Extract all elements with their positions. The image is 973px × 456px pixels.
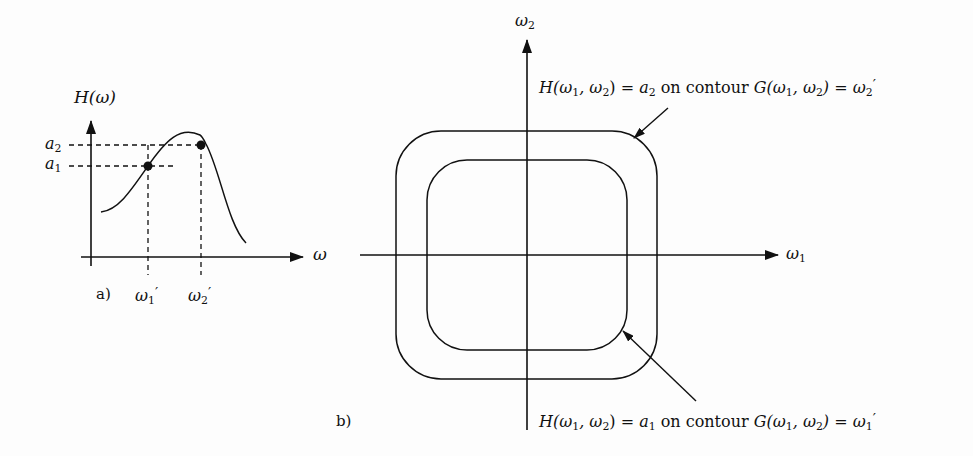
outer-contour-annotation: H(ω1, ω2) = a2 on contour G(ω1, ω2) = ω2… bbox=[539, 78, 876, 99]
inner-leader-arrow bbox=[623, 331, 696, 401]
dashed-guides bbox=[69, 145, 201, 275]
figure: H(ω) a2 a1 ω ω1′ ω2′ a) ω2 ω1 b) H(ω1, ω… bbox=[0, 0, 973, 456]
diagram-graphics bbox=[0, 0, 973, 456]
panel-a-graphics bbox=[69, 121, 303, 275]
a1-label: a1 bbox=[45, 156, 61, 175]
inner-contour-annotation: H(ω1, ω2) = a1 on contour G(ω1, ω2) = ω1… bbox=[539, 412, 876, 433]
a2-label: a2 bbox=[45, 136, 61, 155]
panel-a-label: a) bbox=[96, 287, 111, 302]
omega2-axis-label: ω2 bbox=[515, 13, 535, 32]
panel-b-label: b) bbox=[336, 414, 351, 429]
omega-axis-label: ω bbox=[313, 246, 327, 263]
h-omega-label: H(ω) bbox=[74, 89, 116, 106]
outer-leader-arrow bbox=[634, 108, 668, 138]
point-a1 bbox=[144, 162, 153, 171]
omega1-prime-label: ω1′ bbox=[135, 286, 158, 307]
frequency-response-curve bbox=[101, 132, 246, 243]
point-a2 bbox=[197, 141, 206, 150]
omega2-prime-label: ω2′ bbox=[188, 286, 211, 307]
omega1-axis-label: ω1 bbox=[786, 246, 806, 265]
